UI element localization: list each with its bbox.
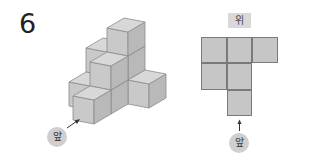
cube-front-face	[73, 96, 94, 124]
top-view-cell	[201, 37, 227, 63]
cube-front-face	[107, 28, 128, 56]
solid-front-label: 앞	[47, 127, 67, 147]
top-view-grid	[201, 37, 278, 116]
top-view-cell	[227, 90, 253, 116]
top-view-front-arrow-icon	[238, 120, 242, 132]
cube-front-face	[90, 62, 111, 90]
top-view-title: 위	[228, 13, 251, 28]
cube-stack	[69, 18, 166, 124]
top-view-cell	[201, 63, 227, 89]
cube-front-face	[128, 80, 149, 108]
top-view-cell	[227, 63, 253, 89]
top-view-cell	[227, 37, 253, 63]
top-view-front-label: 앞	[229, 133, 249, 153]
top-view-cell	[252, 37, 278, 63]
